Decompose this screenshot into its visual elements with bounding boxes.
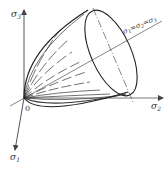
surface-outline <box>24 10 88 98</box>
sigma2-label: σ2 <box>151 101 161 112</box>
ellipse-axis <box>93 8 133 102</box>
yield-surface-diagram: σ3 σ2 σ1 0 σ1=σ2=σ3 <box>0 0 168 170</box>
yield-ellipse <box>74 3 148 103</box>
sigma1-axis <box>15 98 24 150</box>
origin-label: 0 <box>25 104 30 113</box>
sigma1-label: σ1 <box>10 152 20 163</box>
sigma3-label: σ3 <box>11 9 21 20</box>
